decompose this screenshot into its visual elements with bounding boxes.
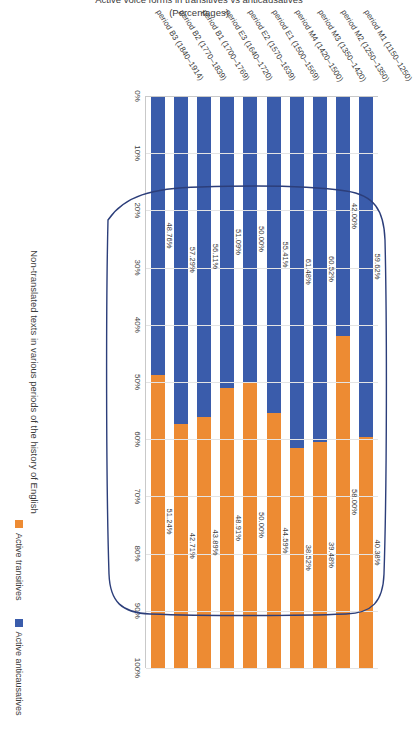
data-label-anticausatives: 61.48% (304, 259, 313, 285)
bar-segment-anticausatives[interactable] (151, 96, 165, 375)
data-label-transitives: 42.71% (188, 533, 197, 559)
y-axis-tick-label: 80% (133, 546, 142, 562)
bar-segment-anticausatives[interactable] (267, 96, 281, 413)
chart-legend: Active transitives Active anticausatives (14, 520, 24, 716)
axis-baseline (145, 96, 146, 668)
legend-label-transitives: Active transitives (14, 533, 24, 601)
data-label-anticausatives: 42.00% (350, 203, 359, 229)
x-axis-title: Non-translated texts in various periods … (29, 96, 40, 668)
gridline (146, 439, 378, 440)
bar-segment-transitives[interactable] (290, 448, 304, 668)
y-axis-tick-label: 60% (133, 431, 142, 447)
bar-segment-transitives[interactable] (313, 442, 327, 668)
data-label-transitives: 58.00% (350, 489, 359, 515)
y-axis-tick-label: 10% (133, 145, 142, 161)
bar-segment-anticausatives[interactable] (197, 96, 211, 417)
bar-segment-transitives[interactable] (220, 388, 234, 668)
data-label-anticausatives: 55.41% (281, 241, 290, 267)
data-label-anticausatives: 60.52% (327, 256, 336, 282)
data-label-transitives: 50.00% (257, 512, 266, 538)
data-label-transitives: 38.52% (304, 545, 313, 571)
gridline (146, 554, 378, 555)
bar-segment-transitives[interactable] (174, 424, 188, 668)
y-axis-tick-label: 70% (133, 488, 142, 504)
data-label-transitives: 43.89% (211, 529, 220, 555)
bar-segment-anticausatives[interactable] (220, 96, 234, 388)
y-axis-tick-label: 50% (133, 374, 142, 390)
y-axis-tick-label: 20% (133, 202, 142, 218)
bar-segment-anticausatives[interactable] (174, 96, 188, 424)
gridline (146, 325, 378, 326)
data-label-transitives: 39.48% (327, 542, 336, 568)
legend-item-active-transitives[interactable]: Active transitives (14, 520, 24, 601)
data-label-anticausatives: 51.09% (234, 229, 243, 255)
gridline (146, 496, 378, 497)
gridline (146, 153, 378, 154)
y-axis-tick-label: 40% (133, 317, 142, 333)
data-label-anticausatives: 59.62% (373, 253, 382, 279)
y-axis-tick-label: 100% (133, 658, 142, 678)
data-label-anticausatives: 48.76% (165, 222, 174, 248)
bar-segment-transitives[interactable] (267, 413, 281, 668)
bar-segment-anticausatives[interactable] (359, 96, 373, 437)
bar-segment-anticausatives[interactable] (243, 96, 257, 382)
y-axis-tick-label: 90% (133, 603, 142, 619)
plot-area (146, 96, 378, 668)
data-label-anticausatives: 57.29% (188, 247, 197, 273)
y-axis-tick-label: 0% (133, 90, 142, 102)
data-label-anticausatives: 50.00% (257, 226, 266, 252)
data-label-transitives: 44.59% (281, 527, 290, 553)
bar-segment-transitives[interactable] (336, 336, 350, 668)
gridline (146, 668, 378, 669)
gridline (146, 96, 378, 97)
gridline (146, 210, 378, 211)
bar-segment-transitives[interactable] (151, 375, 165, 668)
bar-segment-transitives[interactable] (359, 437, 373, 668)
gridline (146, 382, 378, 383)
data-label-transitives: 51.24% (165, 508, 174, 534)
bar-segment-anticausatives[interactable] (336, 96, 350, 336)
bar-segment-anticausatives[interactable] (290, 96, 304, 448)
legend-swatch-icon-transitives (15, 520, 23, 528)
bar-segment-anticausatives[interactable] (313, 96, 327, 442)
y-axis-tick-label: 30% (133, 260, 142, 276)
bar-segment-transitives[interactable] (197, 417, 211, 668)
data-label-transitives: 48.91% (234, 515, 243, 541)
data-label-transitives: 40.38% (373, 539, 382, 565)
gridline (146, 268, 378, 269)
legend-label-anticausatives: Active anticausatives (14, 632, 24, 716)
gridline (146, 611, 378, 612)
bar-segment-transitives[interactable] (243, 382, 257, 668)
legend-item-active-anticausatives[interactable]: Active anticausatives (14, 619, 24, 716)
data-label-anticausatives: 56.11% (211, 244, 220, 269)
legend-swatch-icon-anticausatives (15, 619, 23, 627)
